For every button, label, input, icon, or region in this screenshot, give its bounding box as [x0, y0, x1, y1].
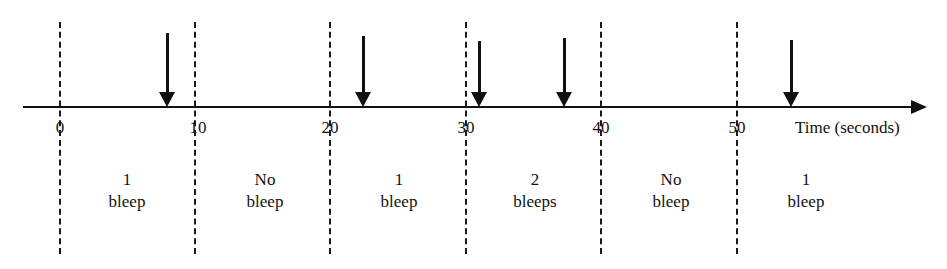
segment-label: 2bleeps: [513, 169, 556, 213]
tick-label-40: 40: [593, 118, 610, 138]
tick-label-30: 30: [458, 118, 475, 138]
interval-divider-50: [736, 22, 738, 254]
segment-label: Nobleep: [653, 169, 690, 213]
tick-label-20: 20: [322, 118, 339, 138]
time-axis-line: [23, 106, 915, 108]
bleep-arrow-icon: [556, 38, 572, 107]
interval-divider-40: [600, 22, 602, 254]
bleep-arrow-icon: [159, 33, 175, 107]
bleep-arrow-icon: [783, 40, 799, 107]
interval-divider-20: [329, 22, 331, 254]
bleep-arrow-icon: [471, 41, 487, 107]
interval-divider-30: [465, 22, 467, 254]
bleep-arrow-icon: [355, 36, 371, 107]
interval-divider-10: [194, 22, 196, 254]
segment-label: Nobleep: [247, 169, 284, 213]
interval-divider-0: [59, 22, 61, 254]
axis-title: Time (seconds): [795, 118, 900, 138]
bleep-timeline-diagram: 0 10 20 30 40 50 Time (seconds) 1bleep N…: [0, 0, 947, 269]
tick-label-50: 50: [729, 118, 746, 138]
segment-label: 1bleep: [788, 169, 825, 213]
tick-label-10: 10: [190, 118, 207, 138]
tick-label-0: 0: [56, 118, 65, 138]
segment-label: 1bleep: [381, 169, 418, 213]
axis-arrowhead-icon: [911, 100, 927, 114]
segment-label: 1bleep: [109, 169, 146, 213]
